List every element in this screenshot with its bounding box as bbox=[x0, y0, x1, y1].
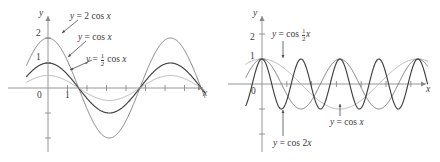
x-axis-label-left: x bbox=[203, 88, 207, 98]
annotation-leader-line bbox=[68, 41, 86, 57]
annotation-arrowhead bbox=[282, 55, 285, 58]
y-axis-arrowhead bbox=[45, 16, 50, 21]
eq-arg-halfcosx: x bbox=[122, 54, 126, 64]
curve-label-cosx-left: y = cos x bbox=[78, 33, 112, 43]
curve-label-halfcosx: y = 12 cos x bbox=[86, 53, 126, 68]
eq-fn-halfcosx: cos bbox=[107, 54, 120, 64]
fraction-one-half-right: 12 bbox=[302, 28, 306, 43]
period-panel: y x 2 1 0 y = cos 12x y = cos x y = cos … bbox=[220, 0, 440, 162]
curve-label-cosx-right: y = cos x bbox=[330, 118, 364, 128]
amplitude-panel: y x 2 1 0 1 y = 2 cos x y = cos x y = 12… bbox=[0, 0, 220, 162]
eq-fn-coshalfx: cos bbox=[286, 29, 299, 39]
y-tick-label-2-right: 2 bbox=[250, 32, 255, 42]
y-tick-label-2-left: 2 bbox=[36, 28, 41, 38]
x-tick-label-0-right: 0 bbox=[251, 86, 256, 96]
amplitude-plot-svg bbox=[0, 0, 220, 162]
fraction-one-half-left: 12 bbox=[101, 53, 105, 68]
x-tick-label-1-left: 1 bbox=[65, 90, 70, 100]
y-axis-label-left: y bbox=[39, 8, 43, 18]
eq-arg-2cosx: x bbox=[107, 11, 111, 21]
eq-arg-cosx-right: x bbox=[359, 117, 363, 127]
y-axis-arrowhead bbox=[259, 16, 264, 21]
axes-group bbox=[228, 16, 426, 152]
eq-arg-cos2x: x bbox=[307, 138, 311, 148]
annotation-arrowhead bbox=[282, 110, 285, 113]
fraction-denominator-right: 2 bbox=[302, 35, 306, 43]
eq-arg-coshalfx: x bbox=[306, 29, 310, 39]
curve-label-cos2x: y = cos 2x bbox=[273, 139, 311, 149]
x-tick-label-0-left: 0 bbox=[37, 90, 42, 100]
x-axis-label-right: x bbox=[426, 84, 430, 94]
eq-fn-2cosx: cos bbox=[91, 11, 104, 21]
eq-fn-cos2x: cos bbox=[287, 138, 300, 148]
period-plot-svg bbox=[220, 0, 440, 162]
fraction-numerator-right: 1 bbox=[302, 28, 306, 35]
figure-root: y x 2 1 0 1 y = 2 cos x y = cos x y = 12… bbox=[0, 0, 440, 162]
eq-fn-cosx-left: cos bbox=[92, 32, 105, 42]
y-tick-label-1-left: 1 bbox=[36, 52, 41, 62]
eq-fn-cosx-right: cos bbox=[344, 117, 357, 127]
curve-label-2cosx: y = 2 cos x bbox=[70, 12, 111, 22]
y-axis-label-right: y bbox=[253, 8, 257, 18]
fraction-numerator-left: 1 bbox=[101, 53, 105, 60]
fraction-denominator-left: 2 bbox=[101, 60, 105, 68]
annotation-arrowhead bbox=[339, 104, 342, 107]
curve-label-cos-half-x: y = cos 12x bbox=[272, 28, 310, 43]
y-tick-label-1-right: 1 bbox=[250, 51, 255, 61]
eq-arg-cosx-left: x bbox=[107, 32, 111, 42]
